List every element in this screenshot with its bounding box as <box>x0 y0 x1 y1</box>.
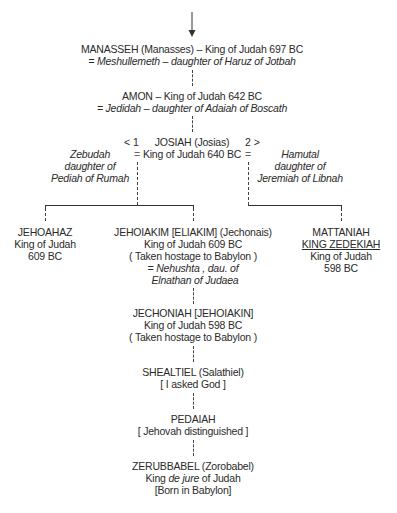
descent-line <box>192 116 193 132</box>
josiah-name: JOSIAH (Josias) <box>155 136 230 148</box>
marriage-1-marker: < 1 <box>124 136 139 148</box>
wife-2-father: Jeremiah of Libnah <box>257 172 343 184</box>
pedaiah-meaning: [ Jehovah distinguished ] <box>138 425 249 437</box>
zerubbabel-title: King de jure of Judah <box>145 472 240 484</box>
wife-1-father: Pediah of Rumah <box>51 172 129 184</box>
descent-line <box>193 288 194 304</box>
marriage-2-marker: 2 > <box>245 136 260 148</box>
zerubbabel-title-italic: de jure <box>168 472 199 484</box>
bracket-tick <box>193 205 194 211</box>
shealtiel-meaning: [ I asked God ] <box>160 378 225 390</box>
zerubbabel-name: ZERUBBABEL (Zorobabel) <box>132 460 254 472</box>
jechoniah-name: JECHONIAH [JEHOIAKIN] <box>133 307 254 319</box>
bracket-tick <box>341 205 342 211</box>
josiah-title: King of Judah 640 BC <box>143 148 241 160</box>
marriage-2-equals: = <box>245 148 251 160</box>
jehoiakim-title: King of Judah 609 BC <box>144 238 242 250</box>
mattaniah-date: 598 BC <box>324 262 358 274</box>
jehoahaz-name: JEHOAHAZ <box>18 226 72 238</box>
branch-line-mattaniah <box>341 213 342 221</box>
descent-line <box>193 346 194 362</box>
jechoniah-note: ( Taken hostage to Babylon ) <box>129 331 257 343</box>
jehoahaz-title: King of Judah <box>14 238 76 250</box>
down-arrow-icon <box>187 12 197 38</box>
sibling-bracket-1 <box>45 205 194 206</box>
branch-line-jehoiakim <box>193 213 194 221</box>
wife-1-name: Zebudah <box>70 148 110 160</box>
zerubbabel-title-post: of Judah <box>199 472 240 484</box>
amon-spouse: = Jedidah – daughter of Adaiah of Boscat… <box>97 102 287 114</box>
marriage-1-equals: = <box>134 148 140 160</box>
marriage-2-descent-line <box>248 162 249 205</box>
shealtiel-name: SHEALTIEL (Salathiel) <box>142 366 243 378</box>
descent-line <box>193 440 194 456</box>
jehoiakim-note: ( Taken hostage to Babylon ) <box>129 250 257 262</box>
mattaniah-regnal-name: KING ZEDEKIAH <box>302 238 381 250</box>
zerubbabel-note: [Born in Babylon] <box>155 484 232 496</box>
wife-2-name: Hamutal <box>281 148 319 160</box>
zerubbabel-title-pre: King <box>145 472 168 484</box>
jechoniah-title: King of Judah 598 BC <box>144 319 242 331</box>
pedaiah-name: PEDAIAH <box>171 413 216 425</box>
sibling-bracket-2 <box>248 205 342 206</box>
marriage-1-descent-line <box>137 162 138 205</box>
descent-line <box>192 70 193 86</box>
mattaniah-title: King of Judah <box>310 250 372 262</box>
jehoahaz-date: 609 BC <box>28 250 62 262</box>
bracket-tick <box>45 205 46 211</box>
jehoiakim-spouse-father: Elnathan of Judaea <box>152 274 239 286</box>
wife-2-relation: daughter of <box>275 160 326 172</box>
amon-name: AMON – King of Judah 642 BC <box>122 90 262 102</box>
manasseh-spouse: = Meshullemeth – daughter of Haruz of Jo… <box>88 55 295 67</box>
branch-line-jehoahaz <box>45 213 46 221</box>
descent-line <box>193 393 194 409</box>
wife-1-relation: daughter of <box>65 160 116 172</box>
mattaniah-name: MATTANIAH <box>312 226 369 238</box>
jehoiakim-spouse: = Nehushta , dau. of <box>148 262 239 274</box>
manasseh-name: MANASSEH (Manasses) – King of Judah 697 … <box>81 43 303 55</box>
jehoiakim-name: JEHOIAKIM [ELIAKIM] (Jechonais) <box>114 226 272 238</box>
